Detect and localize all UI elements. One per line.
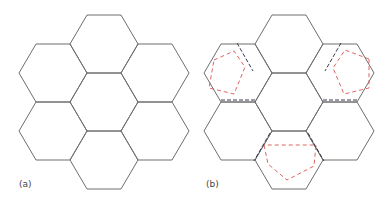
- hexagon-diagram: [0, 0, 390, 203]
- dashed-shared-edge: [325, 43, 341, 71]
- dashed-pentagon: [333, 50, 369, 94]
- hexagon: [121, 102, 189, 160]
- panel-b-label: (b): [206, 179, 219, 189]
- panel-a-label: (a): [19, 179, 32, 189]
- hexagon: [255, 131, 323, 189]
- hexagon: [255, 73, 323, 131]
- dashed-pentagon: [264, 145, 316, 180]
- dashed-shared-edge: [237, 43, 253, 71]
- hexagon: [70, 131, 138, 189]
- dashed-shared-edge: [254, 133, 270, 161]
- hexagon: [255, 15, 323, 73]
- hexagon: [70, 73, 138, 131]
- dashed-pentagon: [209, 51, 245, 94]
- hexagon: [70, 15, 138, 73]
- hexagon: [19, 102, 87, 160]
- hexagon: [306, 102, 374, 160]
- hexagon: [204, 44, 272, 102]
- panel-a-hex-cluster: [19, 15, 189, 189]
- hexagon: [19, 44, 87, 102]
- hexagon: [121, 44, 189, 102]
- hexagon: [204, 102, 272, 160]
- hexagon: [306, 44, 374, 102]
- panel-b-hex-cluster: [204, 15, 374, 189]
- panel-b-pentagon-overlay: [209, 43, 369, 180]
